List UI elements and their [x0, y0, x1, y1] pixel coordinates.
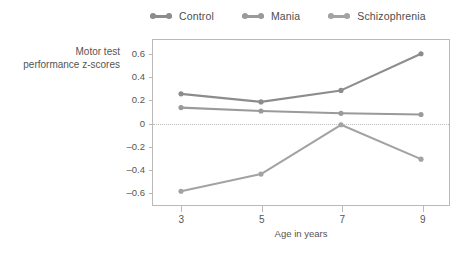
legend-item-schizophrenia[interactable]: Schizophrenia	[328, 10, 426, 22]
x-axis-tick-mark	[342, 205, 343, 212]
y-axis-title-line-2: performance z-scores	[8, 58, 120, 71]
y-axis-title-line-1: Motor test	[8, 45, 120, 58]
x-axis-tick-label: 9	[408, 214, 438, 225]
legend-item-control[interactable]: Control	[150, 10, 214, 22]
data-point-marker	[338, 88, 343, 93]
y-axis-tick-label: –0.2	[111, 141, 153, 153]
series-mania	[178, 105, 423, 117]
data-point-marker	[258, 108, 263, 113]
data-point-marker	[258, 171, 263, 176]
y-axis-tick-label: 0	[111, 118, 153, 130]
y-axis-tick-label: –0.4	[111, 164, 153, 176]
legend-item-label: Schizophrenia	[357, 10, 426, 22]
chart-figure: ControlManiaSchizophrenia Motor test per…	[0, 0, 474, 256]
x-axis-tick-label: 7	[327, 214, 357, 225]
x-axis-title: Age in years	[152, 228, 450, 239]
legend-item-label: Control	[179, 10, 214, 22]
y-axis-tick-label: 0.6	[111, 48, 153, 60]
legend-marker-icon	[150, 11, 172, 21]
legend-marker-icon	[242, 11, 264, 21]
series-schizophrenia	[178, 122, 423, 194]
series-line	[181, 54, 421, 102]
x-axis-tick-mark	[262, 205, 263, 212]
x-axis-tick-label: 3	[166, 214, 196, 225]
x-axis-tick-mark	[423, 205, 424, 212]
x-axis-tick-label: 5	[247, 214, 277, 225]
data-point-marker	[418, 51, 423, 56]
legend-marker-icon	[328, 11, 350, 21]
data-point-marker	[338, 122, 343, 127]
series-control	[178, 51, 423, 104]
data-point-marker	[258, 99, 263, 104]
legend-item-label: Mania	[271, 10, 300, 22]
data-point-marker	[418, 157, 423, 162]
y-axis-title: Motor test performance z-scores	[8, 45, 120, 71]
data-point-marker	[178, 91, 183, 96]
y-axis-tick-label: 0.4	[111, 71, 153, 83]
legend-item-mania[interactable]: Mania	[242, 10, 300, 22]
y-axis-tick-label: –0.6	[111, 187, 153, 199]
y-axis-tick-label: 0.2	[111, 94, 153, 106]
data-point-marker	[178, 189, 183, 194]
x-axis-tick-mark	[181, 205, 182, 212]
chart-legend: ControlManiaSchizophrenia	[150, 6, 450, 26]
plot-area: 0.60.40.20–0.2–0.4–0.63579	[152, 39, 450, 206]
data-point-marker	[178, 105, 183, 110]
series-layer	[153, 40, 449, 205]
plot-inner: 0.60.40.20–0.2–0.4–0.63579	[153, 40, 449, 205]
series-line	[181, 125, 421, 191]
data-point-marker	[338, 111, 343, 116]
series-line	[181, 108, 421, 115]
data-point-marker	[418, 112, 423, 117]
